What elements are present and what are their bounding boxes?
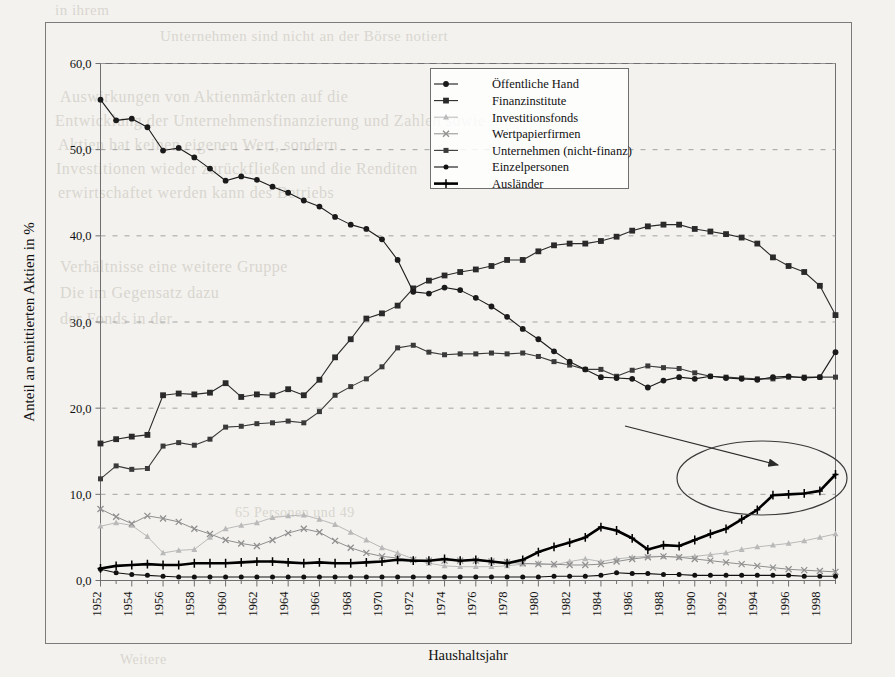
chart-legend: Öffentliche HandFinanzinstituteInvestiti… xyxy=(431,69,632,191)
x-tick-label: 1990 xyxy=(684,592,698,617)
x-tick-label: 1972 xyxy=(402,592,416,617)
chart-figure: 0,010,020,030,040,050,060,0 195219541956… xyxy=(0,0,895,677)
legend-item-label: Wertpapierfirmen xyxy=(492,127,581,141)
x-tick-label: 1962 xyxy=(246,592,260,617)
series-6 xyxy=(98,567,838,580)
x-tick-label: 1978 xyxy=(496,592,510,617)
x-tick-label: 1994 xyxy=(746,591,760,617)
x-tick-label: 1958 xyxy=(183,592,197,617)
legend-item-label: Finanzinstitute xyxy=(492,94,567,108)
y-axis: 0,010,020,030,040,050,060,0 xyxy=(70,57,101,588)
x-tick-label: 1964 xyxy=(277,591,291,617)
series-5 xyxy=(98,343,838,482)
series-7 xyxy=(98,470,839,573)
legend-item-label: Investitionsfonds xyxy=(492,111,578,125)
x-tick-label: 1988 xyxy=(652,592,666,617)
x-tick-label: 1982 xyxy=(559,592,573,617)
annotation-layer xyxy=(625,426,847,515)
legend-item-label: Ausländer xyxy=(492,177,544,191)
y-tick-label: 10,0 xyxy=(70,488,92,502)
x-tick-label: 1966 xyxy=(308,592,322,617)
x-axis-title: Haushaltsjahr xyxy=(428,647,508,663)
x-tick-label: 1986 xyxy=(621,592,635,617)
y-tick-label: 50,0 xyxy=(70,143,92,157)
x-tick-label: 1980 xyxy=(527,592,541,617)
x-tick-label: 1952 xyxy=(90,592,104,617)
x-axis: 1952195419561958196019621964196619681970… xyxy=(90,581,836,617)
legend-item-label: Unternehmen (nicht-finanz) xyxy=(492,144,632,158)
x-tick-label: 1984 xyxy=(590,591,604,617)
x-tick-label: 1992 xyxy=(715,592,729,617)
y-tick-label: 60,0 xyxy=(70,57,92,71)
x-tick-label: 1998 xyxy=(809,592,823,617)
highlight-arrow xyxy=(625,426,778,465)
x-tick-label: 1960 xyxy=(215,592,229,617)
y-tick-label: 20,0 xyxy=(70,402,92,416)
y-tick-label: 40,0 xyxy=(70,229,92,243)
series-2 xyxy=(98,222,839,447)
x-tick-label: 1996 xyxy=(778,592,792,617)
y-tick-label: 30,0 xyxy=(70,316,92,330)
x-tick-label: 1974 xyxy=(434,591,448,617)
x-tick-label: 1968 xyxy=(340,592,354,617)
y-tick-label: 0,0 xyxy=(76,574,92,588)
x-tick-label: 1970 xyxy=(371,592,385,617)
x-tick-label: 1954 xyxy=(121,591,135,617)
legend-item-label: Einzelpersonen xyxy=(492,160,570,174)
x-tick-label: 1956 xyxy=(152,592,166,617)
legend-item-label: Öffentliche Hand xyxy=(492,77,580,91)
x-tick-label: 1976 xyxy=(465,592,479,617)
y-axis-title: Anteil an emittierten Aktien in % xyxy=(21,222,37,422)
